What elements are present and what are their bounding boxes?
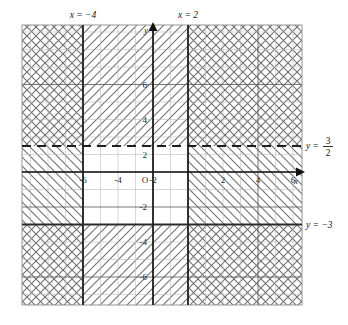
inequality-graph-figure: -6 -4 -2 2 4 6 6 4 2 -2 -4 -6 O x y x = … (0, 0, 348, 325)
label-y-eq-three-halves-denominator: 2 (326, 148, 331, 158)
shaded-region-y-gt-three-halves (22, 25, 302, 146)
label-y-eq-three-halves: y = 3 2 (305, 136, 333, 158)
label-y-eq-three-halves-numerator: 3 (326, 136, 331, 146)
label-y-eq-neg3: y = −3 (305, 220, 333, 230)
coordinate-plane-svg: -6 -4 -2 2 4 6 6 4 2 -2 -4 -6 O x y x = … (0, 0, 348, 325)
label-x-eq-neg4: x = −4 (69, 10, 97, 20)
shaded-region-y-lt-neg3 (22, 225, 302, 305)
x-axis-label: x (293, 176, 298, 186)
x-tick-label: -4 (114, 175, 122, 185)
label-y-eq-three-halves-lhs: y (305, 141, 311, 151)
y-tick-label: -2 (140, 202, 148, 212)
origin-label: O (142, 175, 149, 185)
y-tick-label: -6 (140, 272, 148, 282)
x-tick-label: 4 (256, 175, 261, 185)
y-tick-label: -4 (140, 237, 148, 247)
y-axis-label: y (143, 25, 148, 35)
y-tick-label: 4 (143, 115, 148, 125)
x-tick-label: 2 (221, 175, 226, 185)
y-tick-label: 6 (143, 80, 148, 90)
label-x-eq-2: x = 2 (177, 10, 198, 20)
x-tick-label: -6 (79, 175, 87, 185)
label-y-eq-three-halves-equals: = (313, 141, 318, 151)
x-tick-label: -2 (149, 175, 157, 185)
y-tick-label: 2 (143, 150, 148, 160)
